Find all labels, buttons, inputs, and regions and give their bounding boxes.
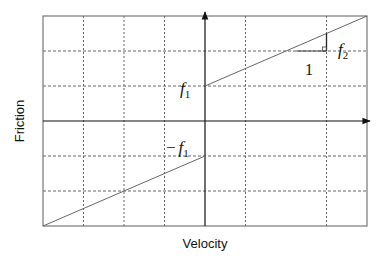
f1-subscript: 1 xyxy=(185,88,191,100)
f2-label: f2 xyxy=(338,40,348,61)
neg-f1-subscript: 1 xyxy=(183,147,189,159)
slope-triangle xyxy=(296,34,326,52)
neg-f1-label: −f1 xyxy=(166,138,189,159)
slope-run-label: 1 xyxy=(305,61,313,78)
x-axis-label: Velocity xyxy=(183,236,228,251)
friction-velocity-diagram: f1 −f1 1 f2 Velocity Friction xyxy=(0,0,383,260)
f1-label: f1 xyxy=(180,79,190,100)
y-axis-label: Friction xyxy=(12,100,27,143)
neg-sign: − xyxy=(166,138,176,157)
f2-subscript: 2 xyxy=(343,49,349,61)
